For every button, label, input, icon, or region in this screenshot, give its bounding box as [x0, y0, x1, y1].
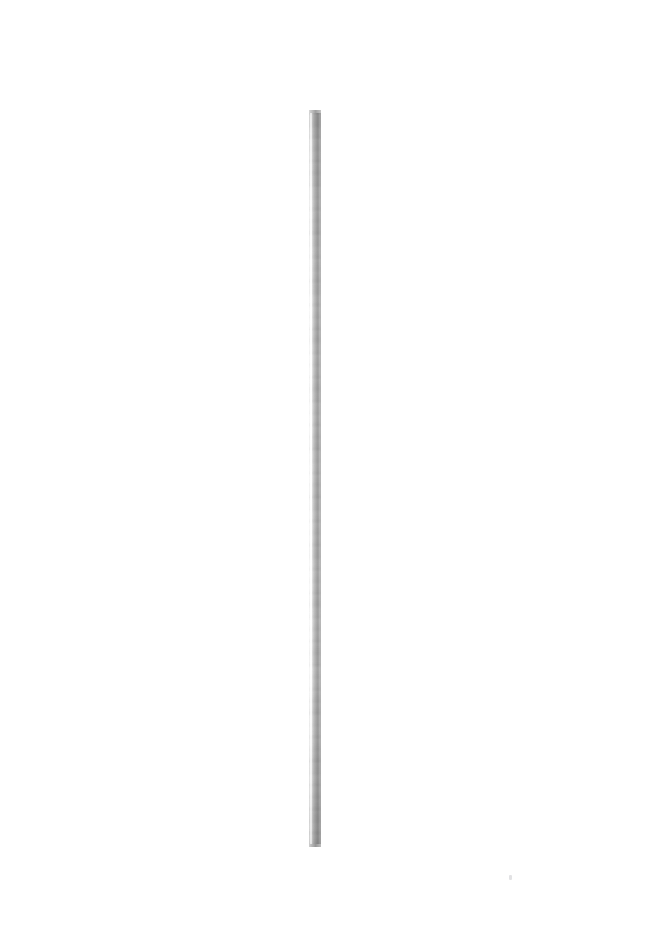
rod-right-edge	[320, 110, 321, 847]
galvanized-steel-rod	[309, 110, 321, 847]
rod-specular-highlight	[310, 110, 313, 847]
rod-bottom-cut-end	[309, 844, 321, 847]
rod-top-cut-end	[309, 110, 321, 113]
product-image-canvas	[0, 0, 652, 928]
image-speck-artifact	[509, 875, 512, 880]
